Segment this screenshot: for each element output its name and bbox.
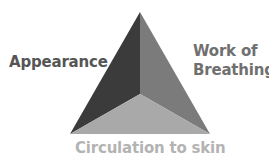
triangle-diagram — [0, 0, 269, 162]
work-of-breathing-label: Work of Breathing — [193, 42, 269, 80]
work-of-breathing-line1: Work of — [193, 42, 269, 61]
appearance-label: Appearance — [9, 53, 108, 71]
work-of-breathing-line2: Breathing — [193, 61, 269, 80]
circulation-label: Circulation to skin — [75, 139, 226, 157]
